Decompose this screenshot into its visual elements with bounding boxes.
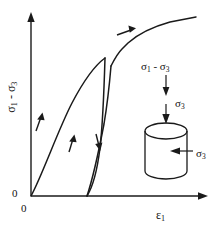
deviator-stress-arrow bbox=[163, 75, 170, 96]
x-axis-label: ε1 bbox=[156, 209, 165, 223]
direction-arrow-group bbox=[36, 26, 136, 152]
specimen-confining-side-text: σ3 bbox=[196, 147, 206, 159]
unloading-curve bbox=[87, 58, 105, 196]
confining-side-arrow bbox=[170, 147, 193, 154]
confining-top-arrow bbox=[162, 104, 169, 124]
reloading-curve bbox=[87, 66, 111, 196]
x-axis-label-text: ε1 bbox=[156, 208, 165, 222]
figure-canvas bbox=[0, 0, 223, 234]
y-axis-label: σ1 - σ3 bbox=[5, 67, 19, 127]
specimen-deviator-stress-label: σ1 - σ3 bbox=[141, 61, 170, 73]
cylinder-top-ellipse bbox=[145, 123, 187, 139]
specimen-confining-top-text: σ3 bbox=[175, 97, 185, 109]
continue-direction-arrow bbox=[117, 26, 136, 35]
specimen-confining-top-label: σ3 bbox=[175, 98, 185, 110]
initial-loading-curve bbox=[31, 58, 105, 196]
y-axis-label-text: σ1 - σ3 bbox=[4, 82, 18, 113]
y-axis-origin-tick: 0 bbox=[12, 188, 18, 199]
y-axis-arrowhead bbox=[27, 12, 34, 22]
curve-group bbox=[31, 17, 196, 196]
x-axis-arrowhead bbox=[198, 192, 208, 199]
specimen-deviator-stress-text: σ1 - σ3 bbox=[141, 60, 170, 72]
post-loop-curve bbox=[111, 17, 196, 66]
x-axis-origin-tick: 0 bbox=[21, 203, 27, 214]
specimen-confining-side-label: σ3 bbox=[196, 148, 206, 160]
reload-direction-arrow bbox=[69, 135, 77, 153]
specimen-schematic bbox=[145, 75, 193, 179]
cylinder-bottom-arc bbox=[145, 171, 187, 179]
loading-direction-arrow bbox=[36, 113, 45, 132]
stress-strain-figure: σ1 - σ3 ε1 0 0 σ1 - σ3 σ3 σ3 bbox=[0, 0, 223, 234]
